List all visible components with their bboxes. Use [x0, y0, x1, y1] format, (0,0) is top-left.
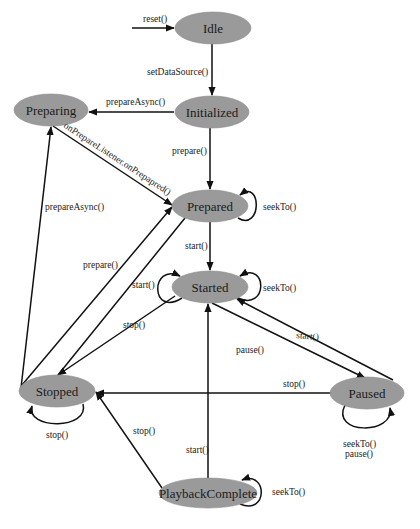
label-init-prepare-async: prepareAsync() [106, 97, 165, 108]
nodes: Idle Initialized Preparing Prepared Star… [14, 12, 404, 508]
label-init-prepare: prepare() [172, 146, 207, 157]
label-set-data-source: setDataSource() [147, 67, 208, 78]
edge-stopped-prepare [22, 207, 172, 385]
state-diagram: Idle Initialized Preparing Prepared Star… [0, 0, 420, 529]
label-complete-start: start() [186, 445, 209, 456]
state-idle: Idle [175, 12, 251, 44]
label-stopped-prepare-async: prepareAsync() [45, 202, 104, 213]
edge-stopped-prepare-async [21, 127, 51, 388]
state-label: Initialized [186, 105, 239, 120]
edge-pause [212, 303, 365, 378]
label-paused-loop-2: pause() [345, 449, 373, 460]
label-paused-start: start() [296, 330, 320, 343]
state-started: Started [172, 271, 248, 303]
state-label: Preparing [26, 103, 77, 118]
label-paused-stop: stop() [283, 379, 305, 390]
label-pause: pause() [236, 345, 264, 356]
state-playback-complete: PlaybackComplete [159, 478, 257, 508]
label-prepared-seek: seekTo() [263, 202, 296, 213]
state-preparing: Preparing [14, 94, 88, 126]
label-started-seek: seekTo() [263, 283, 296, 294]
edge-complete-stop [96, 392, 162, 488]
state-stopped: Stopped [19, 375, 95, 407]
label-started-start-loop: start() [132, 280, 155, 291]
label-complete-stop: stop() [133, 426, 155, 437]
state-label: Paused [349, 386, 386, 401]
label-stopped-prepare: prepare() [83, 260, 118, 271]
state-prepared: Prepared [172, 190, 248, 222]
label-prepared-start: start() [185, 241, 208, 252]
state-label: Prepared [187, 199, 234, 214]
edge-started-stop [58, 296, 175, 375]
state-initialized: Initialized [175, 96, 249, 128]
state-label: Stopped [36, 384, 79, 399]
label-on-prepared: onPrepareListener.onPrepapred() [61, 120, 173, 198]
state-label: Idle [203, 21, 223, 36]
label-complete-seek: seekTo() [272, 487, 305, 498]
edge-prepared-stop [58, 218, 185, 375]
label-stopped-loop: stop() [46, 430, 68, 441]
state-paused: Paused [330, 377, 404, 409]
state-label: PlaybackComplete [159, 486, 257, 501]
edge-on-prepared [53, 126, 172, 205]
state-label: Started [192, 280, 229, 295]
label-started-stop: stop() [123, 320, 145, 331]
label-reset: reset() [143, 14, 167, 25]
